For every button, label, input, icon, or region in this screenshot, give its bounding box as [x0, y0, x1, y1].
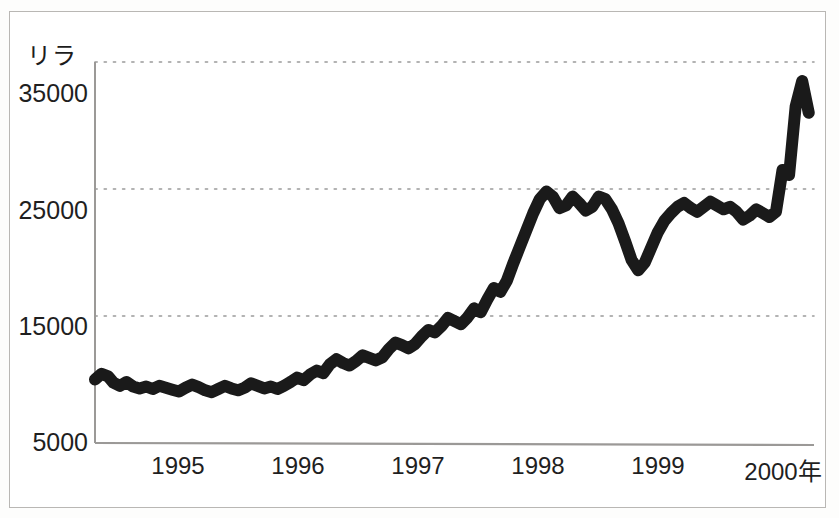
x-axis-line — [95, 443, 814, 445]
chart-screenshot: リラ 35000 25000 15000 5000 1995 1996 1997… — [0, 0, 839, 518]
gridlines — [95, 62, 814, 316]
plot-canvas — [0, 0, 839, 518]
series-line — [95, 81, 809, 392]
line-chart: リラ 35000 25000 15000 5000 1995 1996 1997… — [0, 0, 839, 518]
data-series — [95, 81, 809, 392]
